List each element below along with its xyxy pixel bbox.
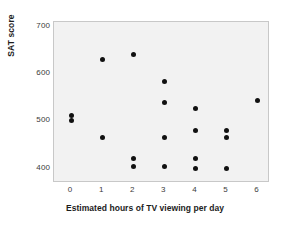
data-point bbox=[131, 156, 136, 161]
x-tick-label: 3 bbox=[153, 185, 173, 194]
data-point bbox=[162, 100, 167, 105]
plot-area bbox=[53, 21, 269, 182]
data-point bbox=[193, 166, 198, 171]
y-tick-label: 700 bbox=[2, 21, 50, 30]
x-tick-label: 6 bbox=[247, 185, 267, 194]
y-tick-label: 500 bbox=[2, 115, 50, 124]
data-point bbox=[131, 52, 136, 57]
data-point bbox=[162, 164, 167, 169]
data-point bbox=[193, 156, 198, 161]
data-point bbox=[224, 166, 229, 171]
x-tick-label: 4 bbox=[184, 185, 204, 194]
x-axis-title: Estimated hours of TV viewing per day bbox=[0, 203, 290, 213]
x-axis-tick-labels: 0123456 bbox=[0, 185, 290, 197]
x-tick-label: 1 bbox=[91, 185, 111, 194]
y-tick-label: 400 bbox=[2, 163, 50, 172]
data-point bbox=[255, 98, 260, 103]
data-point bbox=[162, 79, 167, 84]
data-point bbox=[131, 164, 136, 169]
data-point bbox=[162, 135, 167, 140]
data-point bbox=[224, 128, 229, 133]
scatter-plot-figure: SAT score 400500600700 0123456 Estimated… bbox=[0, 0, 290, 229]
data-point bbox=[100, 135, 105, 140]
data-point bbox=[69, 118, 74, 123]
data-point bbox=[224, 135, 229, 140]
x-tick-label: 0 bbox=[60, 185, 80, 194]
x-tick-label: 5 bbox=[215, 185, 235, 194]
data-point bbox=[193, 106, 198, 111]
x-tick-label: 2 bbox=[122, 185, 142, 194]
data-point bbox=[100, 57, 105, 62]
y-tick-label: 600 bbox=[2, 68, 50, 77]
data-point bbox=[193, 128, 198, 133]
